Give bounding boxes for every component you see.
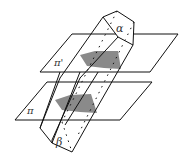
prism-diagram: α π' π β — [0, 0, 191, 168]
label-pi: π — [26, 105, 34, 116]
label-alpha: α — [116, 22, 124, 35]
label-beta: β — [55, 136, 62, 149]
label-pi-prime: π' — [53, 57, 63, 68]
